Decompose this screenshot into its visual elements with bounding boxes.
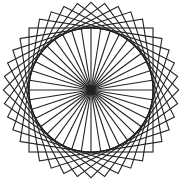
spokes-group bbox=[29, 28, 153, 152]
rosette-diagram bbox=[0, 0, 182, 182]
